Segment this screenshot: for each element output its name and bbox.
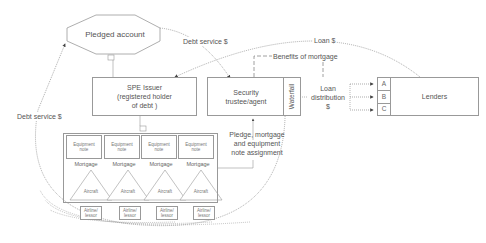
mortgage-label-1: Mortgage bbox=[68, 161, 104, 168]
equipment-note-4: Equipmentnote bbox=[178, 135, 214, 159]
tranche-a: A bbox=[377, 77, 391, 91]
loan-label: Loan $ bbox=[313, 36, 336, 45]
equipment-note-1: Equipmentnote bbox=[66, 135, 102, 159]
equipment-note-3: Equipmentnote bbox=[141, 135, 177, 159]
aircraft-label-2: Aircraft bbox=[109, 189, 147, 195]
aircraft-label-1: Aircraft bbox=[72, 189, 110, 195]
loan-distribution-label: Loan distribution $ bbox=[308, 84, 348, 111]
equipment-note-2: Equipmentnote bbox=[104, 135, 140, 159]
mortgage-label-4: Mortgage bbox=[180, 161, 216, 168]
mortgage-label-3: Mortgage bbox=[143, 161, 179, 168]
airline-lessor-1: Airline/lessor bbox=[80, 206, 102, 220]
tranche-b: B bbox=[377, 90, 391, 104]
pledged-account-label: Pledged account bbox=[70, 30, 160, 39]
lenders-label: Lenders bbox=[391, 78, 478, 115]
aircraft-label-4: Aircraft bbox=[182, 189, 220, 195]
debt-service-left-label: Debt service $ bbox=[17, 112, 62, 121]
lenders-node: A B C Lenders bbox=[377, 77, 479, 116]
security-trustee-node: Security trustee/agent Waterfall bbox=[207, 77, 301, 116]
airline-lessor-3: Airline/lessor bbox=[156, 206, 178, 220]
benefits-of-mortgage-label: Benefits of mortgage bbox=[272, 52, 339, 61]
waterfall-cell: Waterfall bbox=[283, 78, 300, 115]
aircraft-label-3: Aircraft bbox=[146, 189, 184, 195]
mortgage-label-2: Mortgage bbox=[106, 161, 142, 168]
airline-lessor-4: Airline/lessor bbox=[193, 206, 215, 220]
tranche-c: C bbox=[377, 103, 391, 116]
pledge-label: Pledge, mortgage and equipment note assi… bbox=[222, 130, 292, 157]
spe-issuer-node: SPE Issuer (registered holder of debt ) bbox=[92, 77, 197, 116]
airline-lessor-2: Airline/lessor bbox=[119, 206, 141, 220]
debt-service-top-label: Debt service $ bbox=[183, 37, 228, 46]
